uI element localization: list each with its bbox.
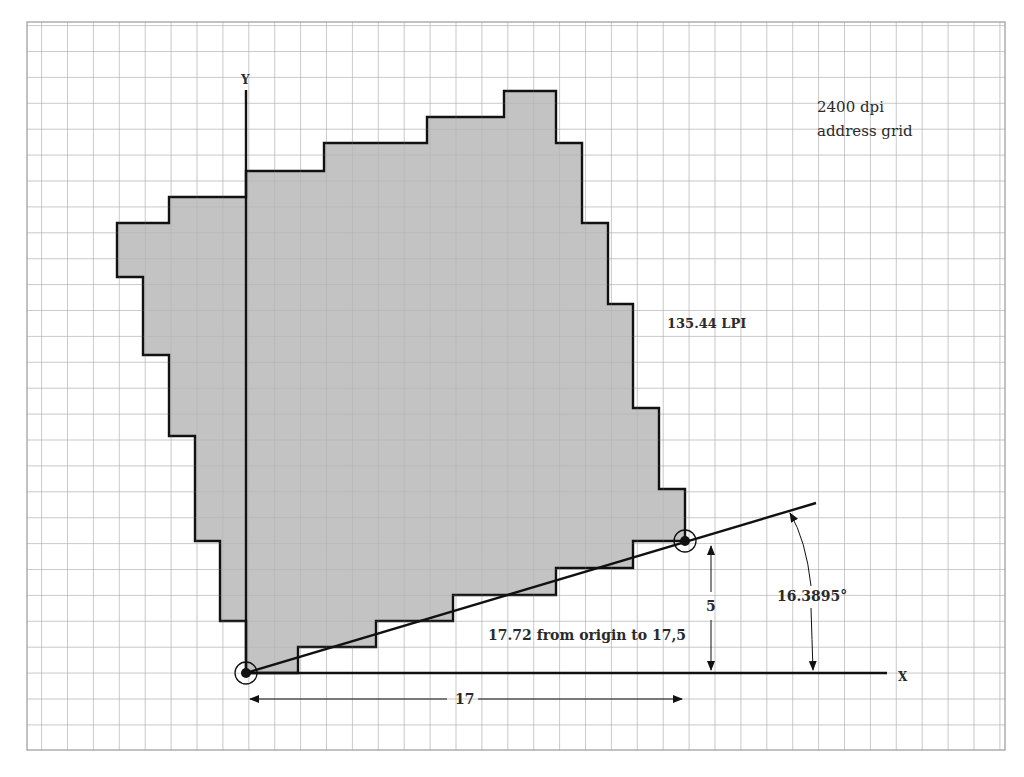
x-axis-label: X — [898, 670, 908, 684]
angle-label: 16.3895° — [777, 588, 847, 604]
grid-resolution-note: 2400 dpi — [817, 98, 884, 116]
distance-label: 17.72 from origin to 17,5 — [488, 627, 686, 643]
halftone-cell-diagram: Y X 2400 dpi address grid 135.44 LPI 17.… — [0, 0, 1024, 777]
grid-resolution-note-line2: address grid — [817, 122, 913, 140]
y-axis-label: Y — [240, 73, 250, 87]
vertical-dimension-label: 5 — [706, 598, 716, 614]
lpi-label: 135.44 LPI — [667, 316, 746, 331]
horizontal-dimension-label: 17 — [455, 691, 474, 707]
